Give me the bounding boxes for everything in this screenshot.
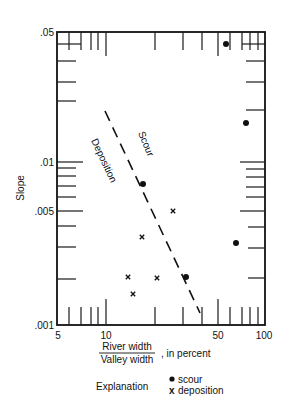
top-x-ticks (69, 32, 258, 56)
scour-point (223, 41, 229, 47)
x-tick-label-100: 100 (256, 330, 273, 341)
deposition-points (126, 209, 175, 296)
deposition-point (131, 292, 135, 296)
deposition-point (155, 276, 159, 280)
scour-point (140, 181, 146, 187)
y-tick-label-001: .001 (35, 320, 55, 331)
deposition-point (140, 235, 144, 239)
deposition-region-label: Deposition (89, 137, 119, 184)
y-axis-label: Slope (15, 175, 26, 201)
scour-point (183, 274, 189, 280)
scour-region-label: Scour (136, 130, 156, 159)
legend-title: Explanation (96, 381, 148, 392)
deposition-point (171, 209, 175, 213)
scour-points (140, 41, 249, 280)
scour-point (233, 240, 239, 246)
legend-scour-symbol-icon (169, 376, 174, 381)
y-tick-label-05: .05 (40, 27, 54, 38)
x-tick-label-5: 5 (55, 330, 61, 341)
scour-deposition-boundary-line (105, 111, 200, 313)
left-y-ticks (57, 44, 83, 279)
plot-frame (57, 32, 265, 325)
x-tick-label-10: 10 (100, 330, 112, 341)
bottom-x-ticks (69, 299, 258, 325)
x-axis-label-suffix: , in percent (161, 348, 211, 359)
legend-deposition-label: deposition (178, 385, 224, 396)
chart-svg: .05 .01 .005 .001 Slope 5 10 50 100 Rive… (0, 0, 289, 412)
x-axis-label-denominator: Valley width (101, 354, 154, 365)
y-tick-label-01: .01 (40, 157, 54, 168)
x-tick-label-50: 50 (212, 330, 224, 341)
legend: Explanation scour x deposition (96, 374, 224, 396)
legend-deposition-symbol-icon: x (169, 385, 175, 396)
legend-scour-label: scour (178, 374, 203, 385)
y-tick-label-005: .005 (35, 206, 55, 217)
deposition-point (126, 275, 130, 279)
right-y-ticks (240, 44, 265, 278)
x-axis-label-numerator: River width (102, 341, 151, 352)
scour-point (243, 120, 249, 126)
